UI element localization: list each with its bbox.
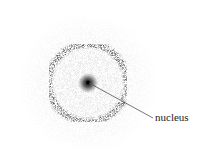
nucleus-region [78, 73, 98, 93]
orbital-diagram [0, 0, 201, 155]
nucleus-dot [86, 81, 90, 85]
nucleus-label: nucleus [155, 112, 189, 123]
